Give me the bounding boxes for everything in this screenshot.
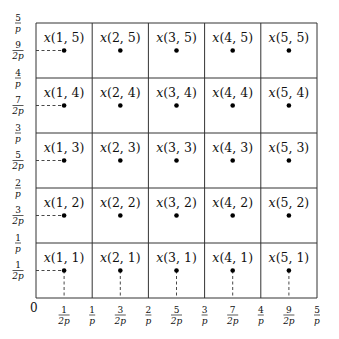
tick-denominator: p — [15, 244, 21, 254]
point-label: x(3, 5) — [156, 30, 197, 45]
point-label: x(3, 2) — [156, 195, 197, 210]
tick-fraction: 52p — [11, 150, 24, 171]
sample-point: x(1, 4) — [44, 85, 85, 108]
point-label: x(1, 5) — [44, 30, 85, 45]
point-label: x(3, 3) — [156, 140, 197, 155]
point-dot-icon — [62, 103, 67, 108]
tick-fraction: 72p — [226, 305, 239, 326]
sample-point: x(2, 4) — [100, 85, 141, 108]
point-dot-icon — [174, 158, 179, 163]
point-label: x(4, 2) — [212, 195, 253, 210]
point-dot-icon — [174, 268, 179, 273]
point-dot-icon — [287, 103, 292, 108]
point-dot-icon — [118, 48, 123, 53]
point-label: x(3, 4) — [156, 85, 197, 100]
tick-numerator: 5 — [15, 13, 21, 23]
point-dot-icon — [230, 48, 235, 53]
point-label: x(5, 4) — [269, 85, 310, 100]
sample-point: x(2, 2) — [100, 195, 141, 218]
sample-point: x(5, 5) — [269, 30, 310, 53]
point-label: x(1, 4) — [44, 85, 85, 100]
tick-fraction: 5p — [15, 13, 21, 34]
sample-point: x(4, 4) — [212, 85, 253, 108]
point-label: x(5, 5) — [269, 30, 310, 45]
sample-point: x(2, 3) — [100, 140, 141, 163]
point-dot-icon — [287, 158, 292, 163]
point-dot-icon — [287, 213, 292, 218]
tick-numerator: 3 — [15, 123, 21, 133]
point-label: x(2, 4) — [100, 85, 141, 100]
grid-diagram: x(1, 5)x(2, 5)x(3, 5)x(4, 5)x(5, 5)x(1, … — [0, 0, 339, 339]
sample-point: x(2, 5) — [100, 30, 141, 53]
sample-point: x(1, 2) — [44, 195, 85, 218]
tick-denominator: p — [15, 24, 21, 34]
tick-numerator: 3 — [15, 205, 21, 215]
tick-numerator: 7 — [230, 305, 236, 315]
point-dot-icon — [287, 268, 292, 273]
tick-numerator: 3 — [202, 305, 208, 315]
point-label: x(2, 5) — [100, 30, 141, 45]
tick-fraction: 2p — [15, 178, 21, 199]
point-label: x(4, 4) — [212, 85, 253, 100]
tick-denominator: p — [15, 189, 21, 199]
sample-point: x(3, 2) — [156, 195, 197, 218]
tick-numerator: 1 — [15, 233, 21, 243]
tick-numerator: 1 — [61, 305, 67, 315]
tick-numerator: 4 — [258, 305, 264, 315]
tick-numerator: 3 — [117, 305, 123, 315]
sample-points: x(1, 5)x(2, 5)x(3, 5)x(4, 5)x(5, 5)x(1, … — [44, 30, 309, 273]
sample-point: x(4, 1) — [212, 250, 253, 273]
point-dot-icon — [118, 268, 123, 273]
tick-denominator: p — [15, 134, 21, 144]
point-dot-icon — [62, 158, 67, 163]
sample-point: x(3, 4) — [156, 85, 197, 108]
tick-denominator: 2p — [114, 316, 127, 326]
tick-denominator: 2p — [57, 316, 70, 326]
tick-numerator: 9 — [286, 305, 292, 315]
tick-denominator: p — [258, 316, 264, 326]
tick-numerator: 5 — [15, 150, 21, 160]
tick-fraction: 3p — [15, 123, 21, 144]
tick-denominator: 2p — [226, 316, 239, 326]
point-label: x(5, 1) — [269, 250, 310, 265]
tick-denominator: 2p — [11, 106, 24, 116]
sample-point: x(1, 1) — [44, 250, 85, 273]
sample-point: x(5, 4) — [269, 85, 310, 108]
tick-fraction: 4p — [258, 305, 264, 326]
tick-fraction: 1p — [15, 233, 21, 254]
tick-fraction: 1p — [89, 305, 95, 326]
point-label: x(2, 3) — [100, 140, 141, 155]
tick-denominator: 2p — [11, 161, 24, 171]
tick-denominator: 2p — [11, 216, 24, 226]
tick-fraction: 52p — [170, 305, 183, 326]
tick-fraction: 92p — [282, 305, 295, 326]
sample-point: x(3, 1) — [156, 250, 197, 273]
tick-fraction: 72p — [11, 95, 24, 116]
point-dot-icon — [62, 48, 67, 53]
sample-point-grid: x(1, 5)x(2, 5)x(3, 5)x(4, 5)x(5, 5)x(1, … — [0, 0, 339, 339]
point-dot-icon — [287, 48, 292, 53]
tick-numerator: 9 — [15, 40, 21, 50]
tick-fraction: 12p — [57, 305, 70, 326]
tick-numerator: 2 — [15, 178, 21, 188]
point-dot-icon — [230, 213, 235, 218]
tick-fraction: 92p — [11, 40, 24, 61]
sample-point: x(2, 1) — [100, 250, 141, 273]
tick-fraction: 3p — [202, 305, 208, 326]
sample-point: x(4, 5) — [212, 30, 253, 53]
point-label: x(2, 2) — [100, 195, 141, 210]
tick-numerator: 1 — [89, 305, 95, 315]
sample-point: x(1, 5) — [44, 30, 85, 53]
point-label: x(4, 1) — [212, 250, 253, 265]
tick-fraction: 12p — [11, 260, 24, 281]
tick-fraction: 5p — [314, 305, 320, 326]
tick-fraction: 32p — [114, 305, 127, 326]
sample-point: x(1, 3) — [44, 140, 85, 163]
tick-numerator: 4 — [15, 68, 21, 78]
point-dot-icon — [230, 103, 235, 108]
point-dot-icon — [118, 213, 123, 218]
sample-point: x(5, 2) — [269, 195, 310, 218]
tick-denominator: p — [89, 316, 95, 326]
tick-fraction: 2p — [145, 305, 151, 326]
tick-denominator: p — [202, 316, 208, 326]
